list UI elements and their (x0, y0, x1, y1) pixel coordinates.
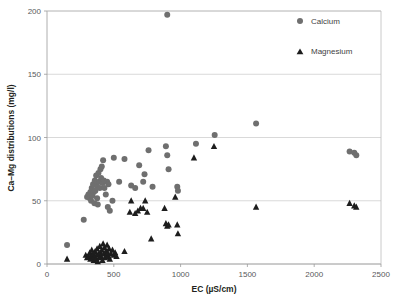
y-tick-label-50: 50 (32, 197, 41, 206)
data-point-calcium (105, 181, 111, 187)
data-point-calcium (94, 195, 100, 201)
data-point-calcium (121, 156, 127, 162)
y-axis-title: Ca–Mg distributions (mg/l) (6, 84, 16, 191)
legend-label-calcium: Calcium (311, 17, 340, 26)
data-point-calcium (103, 191, 109, 197)
data-point-calcium (193, 141, 199, 147)
x-tick-labels: 05001000150020002500 (45, 264, 391, 279)
y-tick-label-0: 0 (37, 260, 42, 269)
x-tick-label-2500: 2500 (372, 270, 390, 279)
data-point-calcium (132, 185, 138, 191)
x-tick-label-500: 500 (107, 270, 121, 279)
x-axis-title: EC (µS/cm) (191, 284, 236, 294)
scatter-chart-figure: 05001000150020002500 050100150200 EC (µS… (0, 0, 406, 308)
data-point-calcium (146, 147, 152, 153)
y-tick-label-200: 200 (28, 7, 42, 16)
data-point-calcium (142, 171, 148, 177)
x-tick-label-2000: 2000 (305, 270, 323, 279)
data-point-calcium (253, 121, 259, 127)
data-point-calcium (353, 152, 359, 158)
x-tick-label-1500: 1500 (239, 270, 257, 279)
data-point-calcium (109, 198, 115, 204)
data-point-calcium (150, 184, 156, 190)
data-point-calcium (64, 242, 70, 248)
data-point-calcium (107, 208, 113, 214)
chart-canvas: 05001000150020002500 050100150200 EC (µS… (0, 0, 406, 308)
y-tick-label-150: 150 (28, 70, 42, 79)
data-point-calcium (99, 164, 105, 170)
x-tick-label-0: 0 (45, 270, 50, 279)
data-point-calcium (164, 12, 170, 18)
data-point-calcium (95, 202, 101, 208)
data-point-calcium (136, 162, 142, 168)
legend-marker-calcium (297, 18, 303, 24)
data-point-calcium (163, 143, 169, 149)
y-tick-label-100: 100 (28, 134, 42, 143)
data-point-calcium (100, 157, 106, 163)
data-point-calcium (111, 155, 117, 161)
data-point-calcium (140, 179, 146, 185)
x-tick-label-1000: 1000 (172, 270, 190, 279)
data-point-calcium (164, 152, 170, 158)
data-point-calcium (81, 217, 87, 223)
data-point-calcium (116, 179, 122, 185)
legend-label-magnesium: Magnesium (311, 47, 353, 56)
data-point-calcium (166, 166, 172, 172)
y-tick-labels: 050100150200 (28, 7, 47, 269)
data-point-calcium (175, 188, 181, 194)
data-point-calcium (212, 132, 218, 138)
